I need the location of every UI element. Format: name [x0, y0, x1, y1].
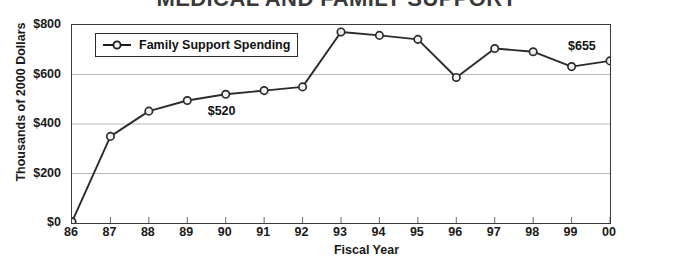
- page-title: MEDICAL AND FAMILY SUPPORT: [0, 0, 673, 12]
- data-point-marker: [107, 133, 114, 140]
- series-line-family-support-spending: [72, 32, 610, 222]
- x-tick-label: 94: [363, 226, 393, 239]
- x-tick-label: 97: [479, 226, 509, 239]
- x-tick-label: 00: [594, 226, 624, 239]
- series-markers: [72, 28, 610, 223]
- gridlines: [72, 75, 610, 174]
- x-tick-label: 95: [402, 226, 432, 239]
- x-tick-marks: [72, 217, 610, 223]
- data-point-marker: [72, 218, 76, 223]
- y-tick-label: $200: [13, 167, 61, 180]
- data-point-marker: [145, 107, 152, 114]
- x-tick-label: 93: [325, 226, 355, 239]
- data-point-annotation: $655: [568, 40, 596, 53]
- x-tick-label: 88: [133, 226, 163, 239]
- data-point-marker: [453, 74, 460, 81]
- x-tick-label: 92: [287, 226, 317, 239]
- x-tick-label: 96: [440, 226, 470, 239]
- legend-marker-icon: [102, 38, 132, 52]
- x-tick-label: 98: [517, 226, 547, 239]
- x-tick-label: 90: [210, 226, 240, 239]
- data-point-marker: [222, 91, 229, 98]
- y-tick-label: $800: [13, 18, 61, 31]
- data-point-marker: [529, 48, 536, 55]
- data-point-marker: [299, 83, 306, 90]
- x-tick-label: 86: [56, 226, 86, 239]
- data-point-marker: [414, 36, 421, 43]
- x-tick-label: 99: [556, 226, 586, 239]
- data-point-marker: [491, 45, 498, 52]
- data-point-marker: [184, 97, 191, 104]
- y-tick-label: $400: [13, 117, 61, 130]
- x-tick-label: 89: [171, 226, 201, 239]
- x-axis-title: Fiscal Year: [60, 243, 673, 257]
- data-point-marker: [337, 28, 344, 35]
- x-tick-label: 91: [248, 226, 278, 239]
- data-point-annotation: $520: [208, 105, 236, 118]
- data-point-marker: [568, 63, 575, 70]
- y-tick-label: $600: [13, 68, 61, 81]
- data-point-marker: [376, 32, 383, 39]
- legend-item-label: Family Support Spending: [139, 38, 290, 52]
- data-point-marker: [260, 87, 267, 94]
- chart-title-clip: MEDICAL AND FAMILY SUPPORT: [0, 0, 673, 13]
- y-tick-label: $0: [13, 216, 61, 229]
- legend: Family Support Spending: [95, 33, 298, 57]
- data-point-marker: [606, 57, 610, 64]
- x-tick-label: 87: [94, 226, 124, 239]
